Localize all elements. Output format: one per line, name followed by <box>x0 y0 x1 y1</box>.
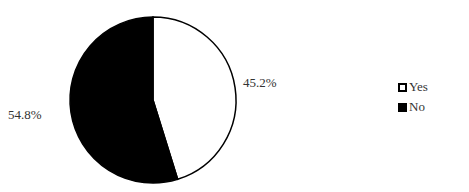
legend: Yes No <box>398 77 428 117</box>
legend-label-yes: Yes <box>409 79 428 95</box>
legend-label-no: No <box>409 99 425 115</box>
slice-label-yes: 45.2% <box>243 75 277 91</box>
legend-item-no: No <box>398 97 428 117</box>
legend-swatch-no-icon <box>398 103 407 112</box>
slice-label-no: 54.8% <box>8 107 42 123</box>
legend-item-yes: Yes <box>398 77 428 97</box>
legend-swatch-yes-icon <box>398 83 407 92</box>
